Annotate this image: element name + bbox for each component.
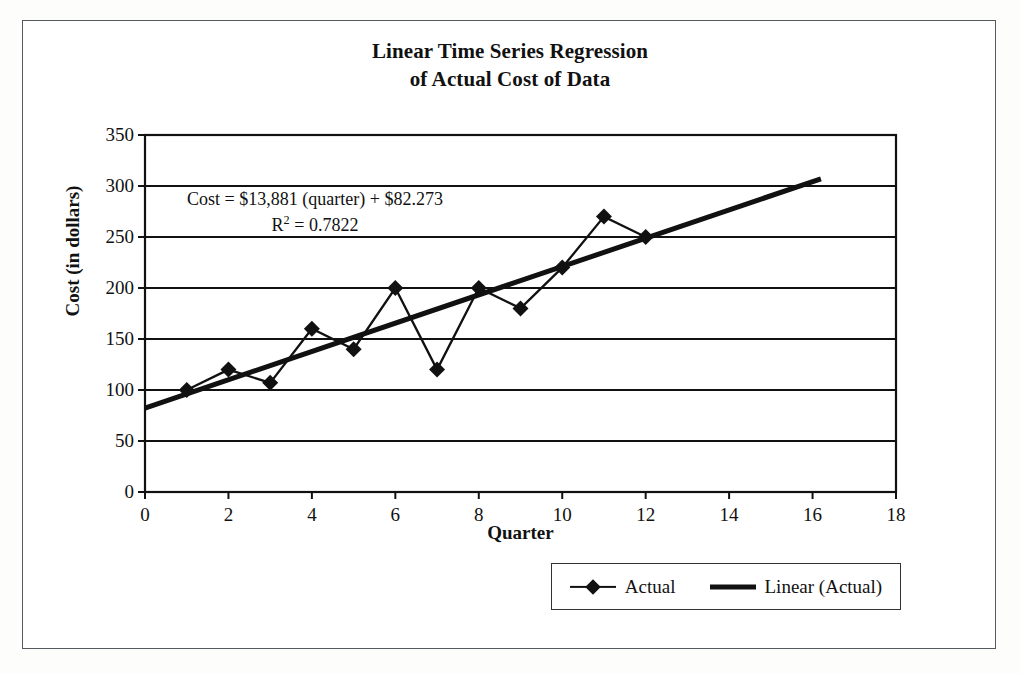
y-tick-label: 350	[78, 124, 134, 146]
x-tick-label: 14	[720, 504, 739, 526]
data-point-marker	[220, 362, 236, 378]
legend-marker-diamond-icon	[570, 578, 616, 596]
series-actual-line	[187, 217, 646, 390]
x-tick-label: 16	[803, 504, 822, 526]
data-point-marker	[387, 280, 403, 296]
x-tick-label: 8	[474, 504, 484, 526]
x-tick-label: 0	[140, 504, 150, 526]
chart-legend: Actual Linear (Actual)	[551, 563, 901, 610]
y-tick-label: 300	[78, 175, 134, 197]
legend-line-icon	[710, 578, 756, 596]
y-tick-label: 150	[78, 328, 134, 350]
legend-item-actual: Actual	[570, 576, 676, 598]
y-tick-label: 0	[78, 481, 134, 503]
x-tick-label: 6	[391, 504, 401, 526]
x-tick-label: 4	[307, 504, 317, 526]
series-trendline	[145, 179, 821, 408]
x-tick-label: 18	[887, 504, 906, 526]
y-tick-label: 200	[78, 277, 134, 299]
legend-label-linear-actual: Linear (Actual)	[765, 576, 883, 598]
data-point-marker	[346, 341, 362, 357]
y-tick-label: 50	[78, 430, 134, 452]
legend-label-actual: Actual	[625, 576, 676, 598]
legend-item-linear-actual: Linear (Actual)	[710, 576, 883, 598]
data-point-marker	[429, 362, 445, 378]
y-tick-label: 250	[78, 226, 134, 248]
y-tick-label: 100	[78, 379, 134, 401]
x-tick-label: 2	[224, 504, 234, 526]
x-tick-label: 12	[636, 504, 655, 526]
x-tick-label: 10	[553, 504, 572, 526]
chart-figure: Linear Time Series Regression of Actual …	[0, 0, 1020, 674]
